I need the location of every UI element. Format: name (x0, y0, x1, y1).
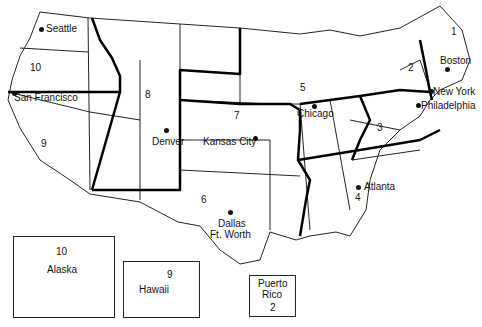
region-number: 8 (145, 90, 151, 100)
city-marker (39, 27, 44, 32)
city-label: Denver (152, 137, 184, 147)
region-number: 4 (355, 193, 361, 203)
city-marker (356, 185, 361, 190)
federal-regions-map: 1 2 3 4 5 6 7 8 9 10 Seattle San Francis… (0, 0, 482, 327)
inset-label: Alaska (47, 265, 77, 275)
region-number: 10 (56, 247, 67, 257)
city-label: Ft. Worth (210, 230, 251, 240)
city-label: Dallas (218, 219, 246, 229)
city-label: Kansas City (203, 137, 256, 147)
city-label: Boston (440, 56, 471, 66)
puerto-rico-inset: Puerto Rico 2 (249, 275, 296, 317)
inset-label: Puerto (258, 279, 287, 289)
city-label: New York (433, 87, 475, 97)
region-number: 1 (451, 27, 457, 37)
inset-label: Rico (262, 290, 282, 300)
city-label: Atlanta (364, 182, 395, 192)
city-label: Philadelphia (421, 101, 476, 111)
city-marker (228, 210, 233, 215)
region-number: 9 (167, 270, 173, 280)
city-marker (164, 128, 169, 133)
city-label: San Francisco (14, 93, 78, 103)
region-number: 9 (41, 139, 47, 149)
hawaii-inset: 9 Hawaii (123, 261, 200, 318)
region-number: 6 (201, 195, 207, 205)
region-number: 7 (234, 111, 240, 121)
alaska-inset: 10 Alaska (13, 236, 115, 318)
region-number: 2 (270, 303, 276, 313)
city-marker (445, 67, 450, 72)
city-label: Seattle (46, 24, 77, 34)
region-number: 5 (300, 83, 306, 93)
region-number: 3 (377, 123, 383, 133)
city-label: Chicago (297, 109, 334, 119)
region-number: 2 (408, 63, 414, 73)
region-number: 10 (30, 63, 41, 73)
inset-label: Hawaii (139, 285, 169, 295)
